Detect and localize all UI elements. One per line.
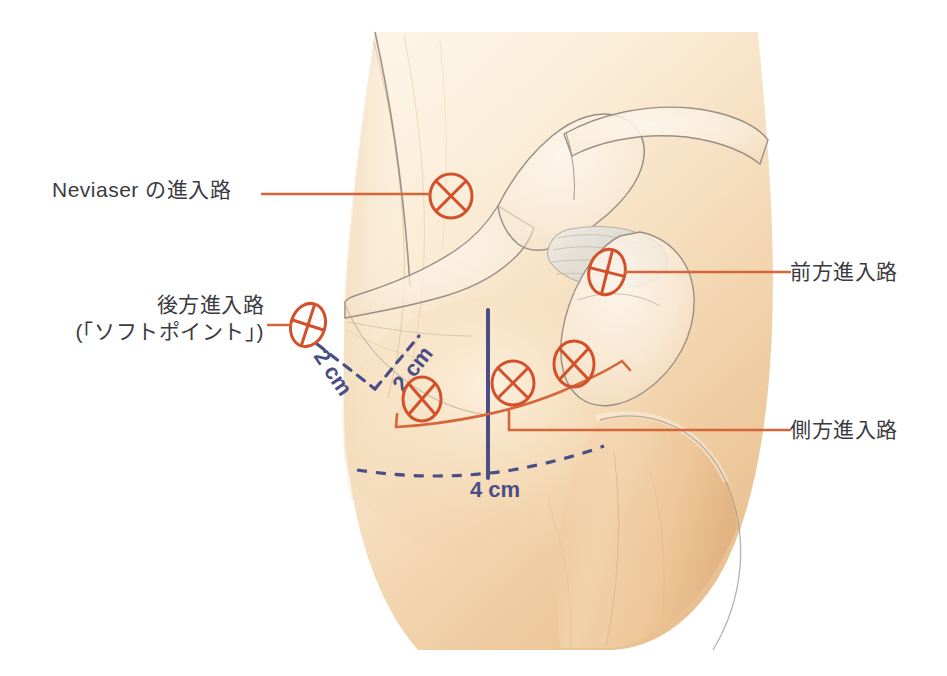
measure-4cm-text: 4 cm [470, 477, 520, 502]
label-lateral-approach: 側方進入路 [790, 416, 898, 443]
label-posterior-approach: 後方進入路 (「ソフトポイント」) [18, 291, 264, 346]
label-neviaser-approach: Neviaser の進入路 [52, 176, 231, 203]
label-posterior-line1: 後方進入路 [18, 291, 264, 318]
label-posterior-line2: (「ソフトポイント」) [18, 318, 264, 345]
label-anterior-approach: 前方進入路 [790, 258, 898, 285]
